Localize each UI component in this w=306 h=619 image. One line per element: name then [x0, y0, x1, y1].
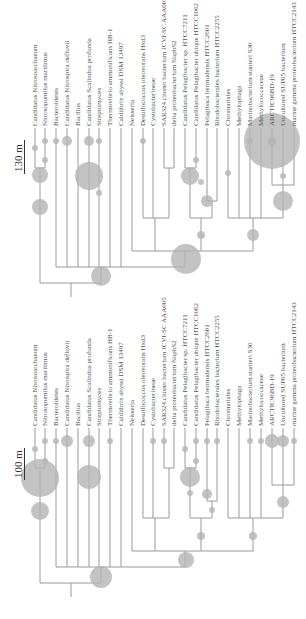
- leaf-label: Streptomyces: [95, 88, 103, 126]
- leaf-label: Candidatus Scalindua profunda: [85, 338, 93, 426]
- leaf-label: Chromatiales: [224, 389, 232, 426]
- abundance-bubble: [277, 435, 289, 447]
- leaf-label: Thermovibrio ammonificans HB-1: [106, 28, 114, 126]
- abundance-bubble: [31, 502, 49, 520]
- leaf-label: Candidatus Pelagibacter sp. HTCC7211: [181, 14, 189, 126]
- leaf-label: Nitrosopumilus maritimus: [41, 52, 49, 126]
- abundance-bubble: [193, 458, 199, 464]
- tree-panel-bottom: 100 m: [0, 300, 306, 610]
- abundance-bubble: [273, 191, 293, 211]
- tree-branches-top: [0, 0, 306, 310]
- leaf-label: delta proteobacterium NaphS2: [170, 340, 178, 426]
- leaf-label: Thermovibrio ammonificans HB-1: [106, 328, 114, 426]
- abundance-bubble: [42, 157, 48, 163]
- abundance-bubble: [187, 490, 193, 496]
- abundance-bubble: [32, 145, 38, 151]
- abundance-bubble: [197, 231, 205, 239]
- abundance-bubble: [42, 138, 48, 144]
- leaf-label: Pelagibaca bermudensis HTCC2601: [203, 24, 211, 126]
- leaf-label: ARCTIC96BD-19: [268, 374, 276, 426]
- abundance-bubble: [21, 459, 59, 497]
- leaf-label: Bacteroidetes: [52, 388, 60, 426]
- leaf-label: delta proteobacterium NaphS2: [170, 40, 178, 126]
- leaf-label: Desulfococcus oleovorans Hxd3: [139, 335, 147, 426]
- leaf-label: Caldithrix abyssi DSM 13497: [117, 342, 125, 426]
- abundance-bubble: [150, 438, 156, 444]
- tree-panel-top: 130 m: [0, 0, 306, 310]
- leaf-label: Caldithrix abyssi DSM 13497: [117, 42, 125, 126]
- abundance-bubble: [32, 167, 48, 183]
- abundance-bubble: [42, 438, 48, 444]
- leaf-label: Nitrosopumilus maritimus: [41, 352, 49, 426]
- abundance-bubble: [268, 137, 276, 145]
- abundance-bubble: [182, 446, 188, 452]
- scale-bar: [24, 140, 25, 174]
- abundance-bubble: [83, 435, 95, 447]
- leaf-label: marine gamma proteobacterium HTCC2143: [290, 302, 298, 426]
- leaf-label: Candidatus Pelagibacter ubique HTCC1062: [192, 3, 200, 126]
- abundance-bubble: [209, 507, 215, 513]
- abundance-bubble: [178, 552, 194, 568]
- abundance-bubble: [32, 446, 38, 452]
- leaf-label: Bacillus: [74, 103, 82, 126]
- leaf-label: Pelagibaca bermudensis HTCC2601: [203, 324, 211, 426]
- abundance-bubble: [201, 195, 213, 207]
- abundance-bubble: [247, 438, 253, 444]
- leaf-label: Bacteroidetes: [52, 88, 60, 126]
- abundance-bubble: [214, 438, 220, 444]
- leaf-label: Candidatus Pelagibacter ubique HTCC1062: [192, 303, 200, 426]
- abundance-bubble: [91, 266, 111, 286]
- leaf-label: Uncultured SUP05 bacterium: [279, 43, 287, 126]
- scale-label: 130 m: [12, 144, 24, 172]
- abundance-bubble: [280, 173, 286, 179]
- abundance-bubble: [181, 167, 199, 185]
- abundance-bubble: [96, 138, 102, 144]
- bubbles: [21, 434, 297, 588]
- abundance-bubble: [249, 532, 257, 540]
- abundance-bubble: [140, 138, 146, 144]
- leaf-label: Desulfococcus oleovorans Hxd3: [139, 35, 147, 126]
- abundance-bubble: [247, 229, 259, 241]
- abundance-bubble: [77, 465, 101, 489]
- abundance-bubble: [171, 244, 201, 274]
- abundance-bubble: [53, 138, 59, 144]
- abundance-bubble: [202, 489, 212, 499]
- tree-branches-bottom: [0, 300, 306, 619]
- leaf-label: Chromatiales: [224, 89, 232, 126]
- leaf-label: Uncultured SUP05 bacterium: [279, 343, 287, 426]
- abundance-bubble: [84, 136, 94, 146]
- leaf-label: Methylophaga: [235, 86, 243, 126]
- abundance-bubble: [204, 438, 210, 444]
- abundance-bubble: [277, 496, 289, 508]
- scale-label: 100 m: [12, 450, 24, 478]
- abundance-bubble: [225, 170, 231, 176]
- leaf-label: Cystobacterineae: [149, 378, 157, 426]
- leaf-label: SAR324 cluster bacterium JCVI-SC AAA005: [160, 297, 168, 426]
- leaf-label: Methylophaga: [235, 386, 243, 426]
- abundance-bubble: [180, 467, 200, 487]
- abundance-bubble: [258, 438, 264, 444]
- abundance-bubble: [62, 136, 72, 146]
- abundance-bubble: [198, 179, 204, 185]
- abundance-bubble: [265, 434, 279, 448]
- scale-bar: [24, 448, 25, 480]
- leaf-label: Streptomyces: [95, 388, 103, 426]
- abundance-bubble: [90, 566, 112, 588]
- abundance-bubble: [193, 157, 199, 163]
- leaf-label: ARCTIC96BD-19: [268, 74, 276, 126]
- leaf-label: marine gamma proteobacterium HTCC2143: [290, 2, 298, 126]
- leaf-label: Candidatus Nitrospira defluvii: [63, 341, 71, 426]
- leaf-label: Methylococcaceae: [257, 74, 265, 126]
- leaf-label: Neisseria: [128, 100, 136, 126]
- leaf-label: Neisseria: [128, 400, 136, 426]
- leaf-label: Rhodobacterales bacterium HTCC2255: [213, 15, 221, 126]
- abundance-bubble: [161, 438, 167, 444]
- abundance-bubble: [193, 438, 199, 444]
- leaf-label: Candidatus Nitrosoarchaeum: [31, 45, 39, 126]
- leaf-label: Marinobacterium stanieri S30: [246, 42, 254, 126]
- abundance-bubble: [291, 438, 297, 444]
- leaf-label: Candidatus Pelagibacter sp. HTCC7211: [181, 314, 189, 426]
- branches: [35, 428, 294, 597]
- abundance-bubble: [107, 438, 113, 444]
- bubbles: [32, 113, 300, 286]
